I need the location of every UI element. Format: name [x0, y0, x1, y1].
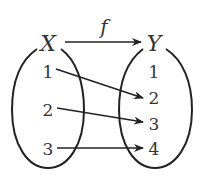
domain-label: X	[38, 31, 57, 56]
codomain-label: Y	[147, 31, 164, 56]
domain-element: 2	[43, 100, 54, 120]
domain-element: 3	[43, 139, 54, 159]
function-mapping-diagram: f X Y 1 2 3 1 2 3 4	[0, 0, 212, 188]
mapping-arrow-1-to-2	[56, 69, 143, 98]
domain-element: 1	[43, 62, 54, 82]
mapping-arrow-2-to-3	[57, 108, 143, 122]
codomain-element: 1	[149, 62, 160, 82]
function-label: f	[98, 15, 111, 39]
codomain-element: 4	[149, 139, 160, 159]
codomain-element: 3	[149, 114, 160, 134]
codomain-element: 2	[149, 88, 160, 108]
